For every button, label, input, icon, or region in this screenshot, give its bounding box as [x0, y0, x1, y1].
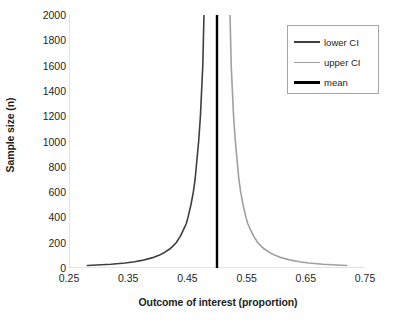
legend-item[interactable]: upper CI: [292, 52, 374, 72]
y-tick-label: 1000: [26, 136, 66, 148]
y-axis-title: Sample size (n): [0, 0, 20, 270]
legend-swatch-icon: [294, 81, 320, 84]
y-tick-label: 2000: [26, 9, 66, 21]
x-tick-label: 0.55: [225, 272, 269, 284]
y-tick-label: 400: [26, 211, 66, 223]
y-tick-label: 800: [26, 161, 66, 173]
x-tick-label: 0.75: [343, 272, 387, 284]
x-tick-label: 0.25: [47, 272, 91, 284]
x-axis-title: Outcome of interest (proportion): [68, 296, 368, 308]
x-tick-label: 0.65: [284, 272, 328, 284]
legend-label: mean: [324, 77, 348, 88]
y-tick-label: 1200: [26, 110, 66, 122]
legend-swatch-icon: [294, 41, 320, 43]
legend-swatch-icon: [294, 62, 320, 63]
y-tick-label: 200: [26, 237, 66, 249]
y-tick-label: 1400: [26, 85, 66, 97]
x-tick-label: 0.35: [106, 272, 150, 284]
y-tick-label: 1800: [26, 34, 66, 46]
y-tick-label: 1600: [26, 60, 66, 72]
chart-legend: lower CIupper CImean: [287, 25, 379, 94]
series-line-lower-ci: [87, 15, 204, 265]
legend-item[interactable]: lower CI: [292, 32, 374, 52]
legend-item[interactable]: mean: [292, 72, 374, 92]
legend-label: lower CI: [324, 37, 359, 48]
y-tick-label: 600: [26, 186, 66, 198]
legend-label: upper CI: [324, 57, 360, 68]
chart-figure: Sample size (n) 020040060080010001200140…: [0, 0, 408, 324]
x-tick-label: 0.45: [165, 272, 209, 284]
